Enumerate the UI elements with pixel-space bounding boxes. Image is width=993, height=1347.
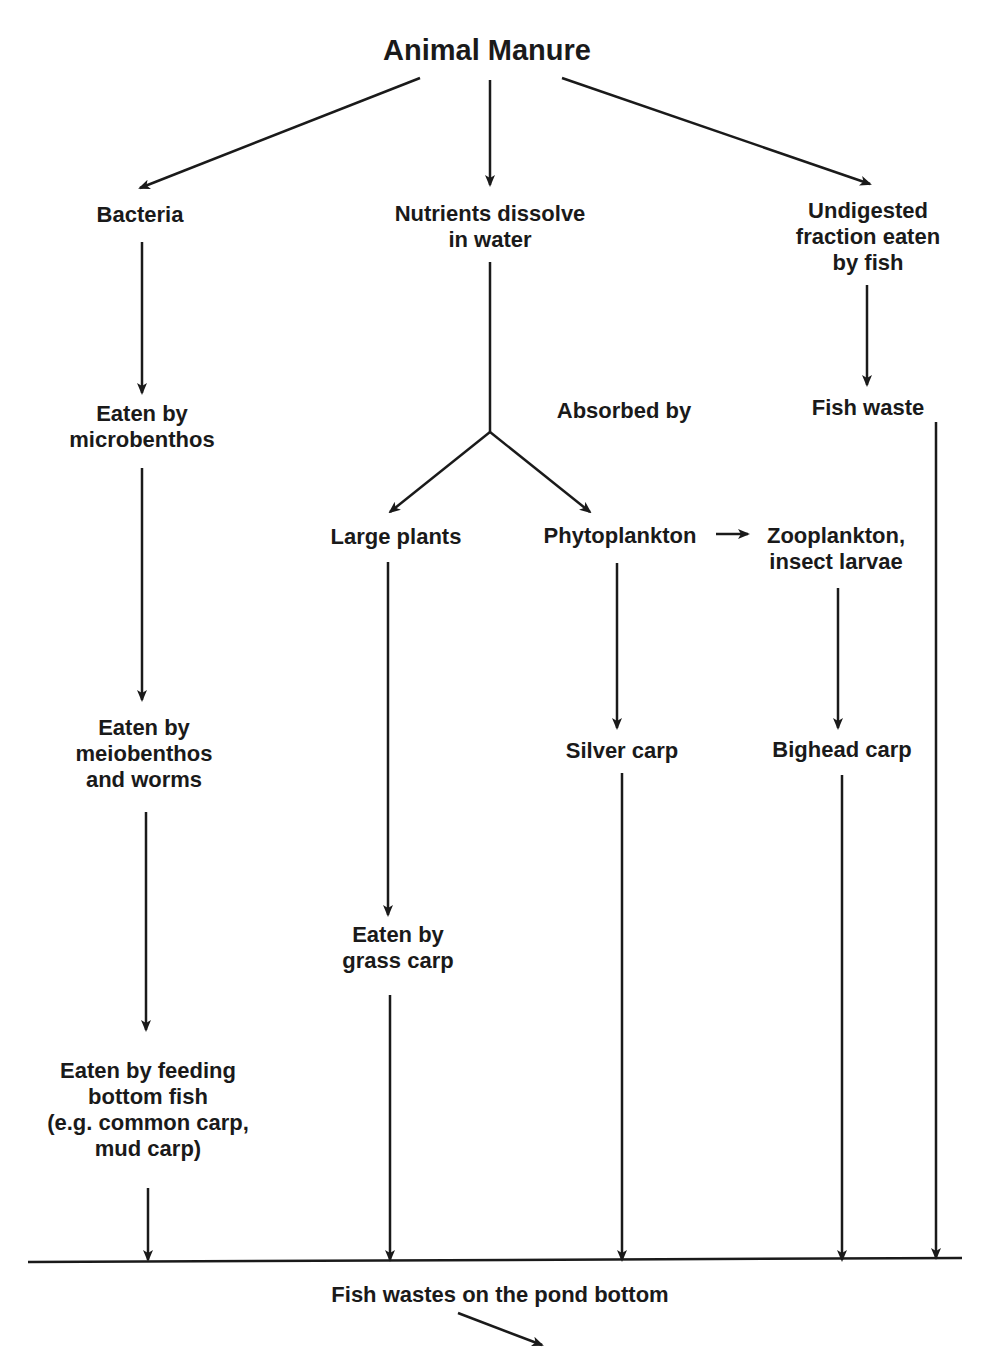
node-line: insect larvae [767, 549, 905, 575]
node-animal-manure: Animal Manure [383, 34, 591, 66]
node-line: Fish wastes on the pond bottom [331, 1282, 668, 1308]
node-pond-bottom: Fish wastes on the pond bottom [331, 1282, 668, 1308]
node-line: Eaten by [76, 715, 213, 741]
node-line: Phytoplankton [544, 523, 697, 549]
label-absorbed-by: Absorbed by [557, 398, 691, 424]
node-line: Undigested [796, 198, 940, 224]
node-line: Zooplankton, [767, 523, 905, 549]
node-line: bottom fish [47, 1084, 249, 1110]
node-line: Fish waste [812, 395, 924, 421]
node-line: Eaten by feeding [47, 1058, 249, 1084]
node-line: mud carp) [47, 1136, 249, 1162]
node-eaten-by-meiobenthos: Eaten by meiobenthos and worms [76, 715, 213, 793]
node-line: (e.g. common carp, [47, 1110, 249, 1136]
node-line: fraction eaten [796, 224, 940, 250]
node-line: Silver carp [566, 738, 679, 764]
node-line: Eaten by [69, 401, 214, 427]
manure-flow-diagram: Animal Manure Bacteria Nutrients dissolv… [0, 0, 993, 1347]
node-bacteria: Bacteria [97, 202, 184, 228]
node-zooplankton: Zooplankton, insect larvae [767, 523, 905, 575]
node-large-plants: Large plants [331, 524, 462, 550]
node-phytoplankton: Phytoplankton [544, 523, 697, 549]
node-undigested-fraction: Undigested fraction eaten by fish [796, 198, 940, 276]
node-line: Bighead carp [772, 737, 911, 763]
title-text: Animal Manure [383, 34, 591, 66]
node-line: Nutrients dissolve [395, 201, 586, 227]
node-line: Large plants [331, 524, 462, 550]
node-eaten-by-bottom-fish: Eaten by feeding bottom fish (e.g. commo… [47, 1058, 249, 1162]
node-line: by fish [796, 250, 940, 276]
node-line: in water [395, 227, 586, 253]
node-eaten-by-microbenthos: Eaten by microbenthos [69, 401, 214, 453]
node-line: Bacteria [97, 202, 184, 228]
node-line: microbenthos [69, 427, 214, 453]
node-bighead-carp: Bighead carp [772, 737, 911, 763]
node-line: grass carp [342, 948, 453, 974]
node-line: and worms [76, 767, 213, 793]
node-nutrients-dissolve: Nutrients dissolve in water [395, 201, 586, 253]
node-line: meiobenthos [76, 741, 213, 767]
node-line: Eaten by [342, 922, 453, 948]
node-eaten-by-grass-carp: Eaten by grass carp [342, 922, 453, 974]
node-fish-waste: Fish waste [812, 395, 924, 421]
node-silver-carp: Silver carp [566, 738, 679, 764]
node-line: Absorbed by [557, 398, 691, 424]
